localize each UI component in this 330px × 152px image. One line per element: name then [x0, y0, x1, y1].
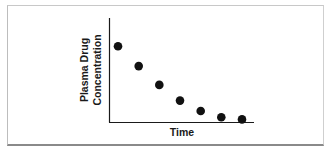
y-axis-label-line-2: Concentration [91, 34, 103, 105]
y-axis-label-line-1: Plasma Drug [78, 38, 90, 102]
scatter-chart: Plasma Drug Concentration Time [0, 0, 330, 152]
data-point [196, 107, 205, 116]
data-points [114, 42, 247, 124]
data-point [217, 113, 226, 122]
data-point [176, 96, 185, 105]
data-point [238, 115, 247, 124]
data-point [155, 81, 164, 90]
x-axis-label: Time [170, 126, 194, 138]
data-point [114, 42, 123, 51]
y-axis-label: Plasma Drug Concentration [78, 34, 103, 105]
data-point [134, 62, 143, 71]
